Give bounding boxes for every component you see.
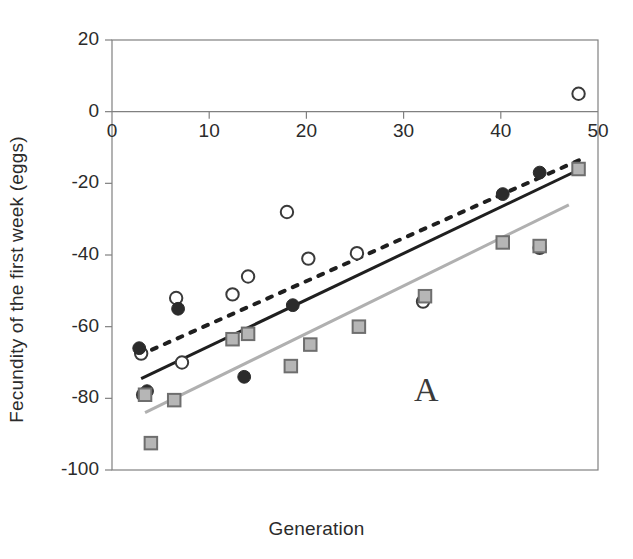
y-tick-label: -20	[0, 171, 99, 193]
x-tick-label: 30	[374, 120, 434, 142]
data-point-gray-square	[419, 290, 432, 303]
data-point-filled-circle	[533, 166, 546, 179]
data-point-open-circle	[351, 247, 363, 259]
y-tick-label: -80	[0, 386, 99, 408]
data-point-gray-square	[145, 437, 158, 450]
data-point-gray-square	[242, 328, 255, 341]
data-point-gray-square	[353, 320, 366, 333]
data-point-open-circle	[302, 252, 314, 264]
data-point-filled-circle	[286, 299, 299, 312]
data-point-filled-circle	[238, 370, 251, 383]
y-tick-label: 20	[0, 28, 99, 50]
data-point-gray-square	[533, 240, 546, 253]
data-point-open-circle	[176, 356, 188, 368]
x-tick-label: 50	[568, 120, 628, 142]
y-tick-label: -60	[0, 315, 99, 337]
y-tick-label: -40	[0, 243, 99, 265]
data-point-filled-circle	[133, 342, 146, 355]
panel-label: A	[414, 371, 439, 409]
y-tick-label: 0	[0, 100, 99, 122]
figure-panel-a: Generation Fecundity of the first week (…	[0, 0, 633, 559]
x-tick-label: 20	[276, 120, 336, 142]
x-tick-label: 10	[179, 120, 239, 142]
x-axis-title: Generation	[0, 518, 633, 540]
data-point-open-circle	[226, 288, 238, 300]
data-point-gray-square	[226, 333, 239, 346]
x-tick-label: 40	[471, 120, 531, 142]
data-point-gray-square	[496, 236, 509, 249]
data-point-open-circle	[242, 270, 254, 282]
y-tick-label: -100	[0, 458, 99, 480]
data-point-open-circle	[281, 206, 293, 218]
trend-line	[141, 169, 580, 379]
data-point-open-circle	[572, 88, 584, 100]
data-point-gray-square	[572, 163, 585, 176]
data-point-gray-square	[304, 338, 317, 351]
x-tick-label: 0	[82, 120, 142, 142]
data-point-filled-circle	[496, 188, 509, 201]
data-point-gray-square	[285, 360, 298, 373]
data-point-filled-circle	[172, 302, 185, 315]
data-point-gray-square	[168, 394, 181, 407]
data-point-gray-square	[139, 389, 152, 402]
